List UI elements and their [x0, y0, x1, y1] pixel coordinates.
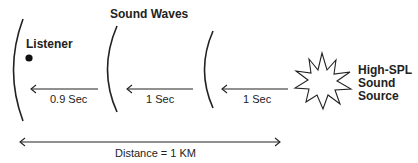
distance-arrow	[20, 138, 280, 146]
wave-arc-1	[14, 19, 24, 121]
segment-label-2: 1 Sec	[146, 93, 175, 105]
listener-label: Listener	[26, 37, 73, 51]
source-label-line-3: Source	[358, 89, 399, 103]
segment-arrow-1	[31, 85, 98, 93]
listener-dot-icon	[25, 54, 32, 61]
sound-wave-diagram: Sound Waves Listener 0.9 Sec 1 Sec 1 Sec…	[0, 0, 418, 163]
sound-source-burst-icon	[295, 53, 351, 109]
diagram-title: Sound Waves	[110, 7, 189, 21]
segment-arrow-3	[222, 85, 288, 93]
distance-label: Distance = 1 KM	[115, 147, 196, 159]
source-label-line-2: Sound	[358, 76, 395, 90]
wave-arc-3	[205, 31, 214, 108]
segment-label-1: 0.9 Sec	[50, 93, 88, 105]
source-label-line-1: High-SPL	[358, 63, 412, 77]
wave-arc-2	[108, 26, 118, 112]
segment-label-3: 1 Sec	[243, 93, 272, 105]
segment-arrow-2	[127, 85, 193, 93]
